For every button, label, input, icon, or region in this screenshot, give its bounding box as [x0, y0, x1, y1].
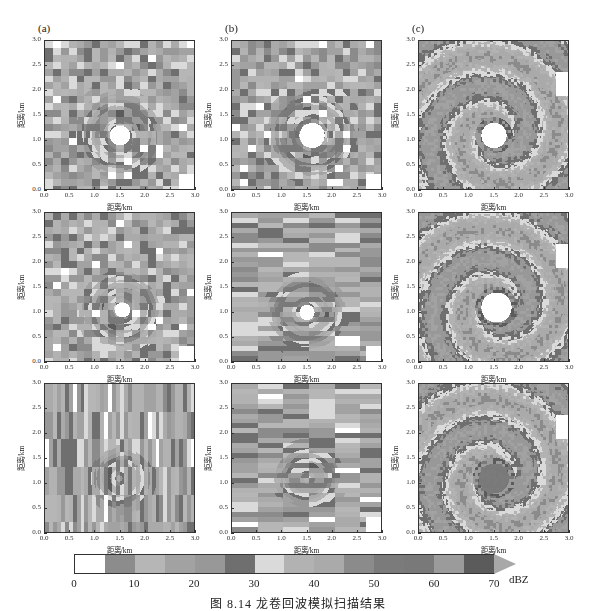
y-tick-label: 1.0	[399, 308, 415, 315]
x-tick-mark	[145, 530, 146, 533]
y-tick-mark	[418, 140, 421, 141]
y-tick-label: 0.5	[212, 333, 228, 340]
x-tick-label: 0.5	[61, 535, 77, 542]
x-tick-mark	[256, 187, 257, 190]
colorbar-segment-40-45	[314, 555, 344, 573]
y-tick-label: 2.5	[212, 404, 228, 411]
heatmap-panel-r1-b	[231, 40, 382, 190]
panel-label-b: (b)	[225, 22, 238, 34]
x-tick-mark	[443, 359, 444, 362]
y-tick-label: 1.0	[212, 479, 228, 486]
y-tick-mark	[418, 40, 421, 41]
y-tick-label: 1.5	[212, 111, 228, 118]
x-tick-mark	[494, 359, 495, 362]
y-tick-label: 0.5	[212, 504, 228, 511]
x-tick-label: 0.5	[248, 535, 264, 542]
y-tick-label: 0.5	[399, 333, 415, 340]
colorbar-segment-45-50	[344, 555, 374, 573]
y-tick-mark	[418, 483, 421, 484]
x-tick-mark	[382, 530, 383, 533]
colorbar-segment-30-35	[255, 555, 285, 573]
y-tick-label: 3.0	[399, 208, 415, 215]
x-tick-mark	[494, 530, 495, 533]
x-tick-label: 1.5	[486, 192, 502, 199]
x-tick-label: 1.0	[273, 535, 289, 542]
colorbar-tick-0: 0	[64, 577, 84, 589]
x-tick-mark	[544, 530, 545, 533]
y-tick-mark	[231, 140, 234, 141]
x-tick-label: 0.0	[36, 535, 52, 542]
y-tick-label: 3.0	[399, 36, 415, 43]
y-tick-label: 3.0	[212, 36, 228, 43]
y-tick-mark	[44, 115, 47, 116]
y-tick-mark	[44, 312, 47, 313]
y-tick-mark	[231, 65, 234, 66]
panel-label-a: (a)	[38, 22, 50, 34]
y-tick-label: 2.0	[399, 86, 415, 93]
y-tick-label: 1.0	[25, 479, 41, 486]
x-tick-mark	[468, 530, 469, 533]
x-tick-label: 2.0	[511, 535, 527, 542]
x-tick-mark	[195, 187, 196, 190]
x-tick-mark	[569, 530, 570, 533]
x-tick-mark	[145, 359, 146, 362]
y-tick-mark	[44, 458, 47, 459]
x-tick-label: 3.0	[374, 364, 390, 371]
y-tick-mark	[231, 237, 234, 238]
panel-label-c: (c)	[412, 22, 424, 34]
x-tick-label: 1.0	[273, 364, 289, 371]
y-tick-label: 1.5	[212, 283, 228, 290]
y-tick-mark	[231, 508, 234, 509]
reflectivity-image	[232, 41, 381, 189]
y-tick-label: 3.0	[25, 208, 41, 215]
x-tick-mark	[382, 359, 383, 362]
y-axis-label: 距离/km	[15, 439, 26, 479]
y-tick-mark	[418, 383, 421, 384]
x-tick-mark	[69, 530, 70, 533]
y-axis-label: 距离/km	[389, 268, 400, 308]
y-axis-label: 距离/km	[202, 268, 213, 308]
y-tick-label: 1.0	[212, 136, 228, 143]
x-tick-mark	[145, 187, 146, 190]
y-tick-label: 1.5	[399, 111, 415, 118]
x-axis-label: 距离/km	[464, 201, 524, 212]
x-tick-label: 0.0	[36, 364, 52, 371]
y-tick-mark	[231, 383, 234, 384]
x-tick-mark	[544, 187, 545, 190]
y-tick-label: 2.0	[212, 258, 228, 265]
y-tick-label: 0.5	[212, 161, 228, 168]
y-tick-mark	[44, 383, 47, 384]
x-axis-label: 距离/km	[277, 201, 337, 212]
x-tick-mark	[94, 530, 95, 533]
heatmap-panel-r2-b	[231, 212, 382, 362]
y-tick-mark	[44, 90, 47, 91]
y-tick-label: 2.5	[25, 61, 41, 68]
x-tick-mark	[332, 530, 333, 533]
y-tick-label: 1.0	[25, 308, 41, 315]
x-tick-label: 3.0	[561, 364, 577, 371]
y-tick-label: 1.0	[399, 479, 415, 486]
reflectivity-image	[232, 213, 381, 361]
y-tick-mark	[44, 408, 47, 409]
y-tick-mark	[44, 287, 47, 288]
y-tick-mark	[231, 483, 234, 484]
x-tick-mark	[357, 187, 358, 190]
y-tick-mark	[44, 165, 47, 166]
colorbar-tick-70: 70	[484, 577, 504, 589]
x-tick-label: 2.0	[324, 535, 340, 542]
colorbar-tick-20: 20	[184, 577, 204, 589]
y-tick-label: 0.5	[25, 161, 41, 168]
y-tick-label: 2.0	[212, 86, 228, 93]
y-tick-mark	[44, 40, 47, 41]
x-tick-label: 1.5	[299, 364, 315, 371]
reflectivity-image	[45, 213, 194, 361]
x-tick-mark	[357, 530, 358, 533]
y-tick-mark	[44, 65, 47, 66]
x-tick-mark	[170, 530, 171, 533]
x-tick-mark	[418, 187, 419, 190]
x-tick-mark	[170, 187, 171, 190]
reflectivity-image	[419, 384, 568, 532]
x-tick-label: 2.5	[349, 192, 365, 199]
heatmap-panel-r2-c	[418, 212, 569, 362]
x-tick-label: 1.5	[486, 364, 502, 371]
